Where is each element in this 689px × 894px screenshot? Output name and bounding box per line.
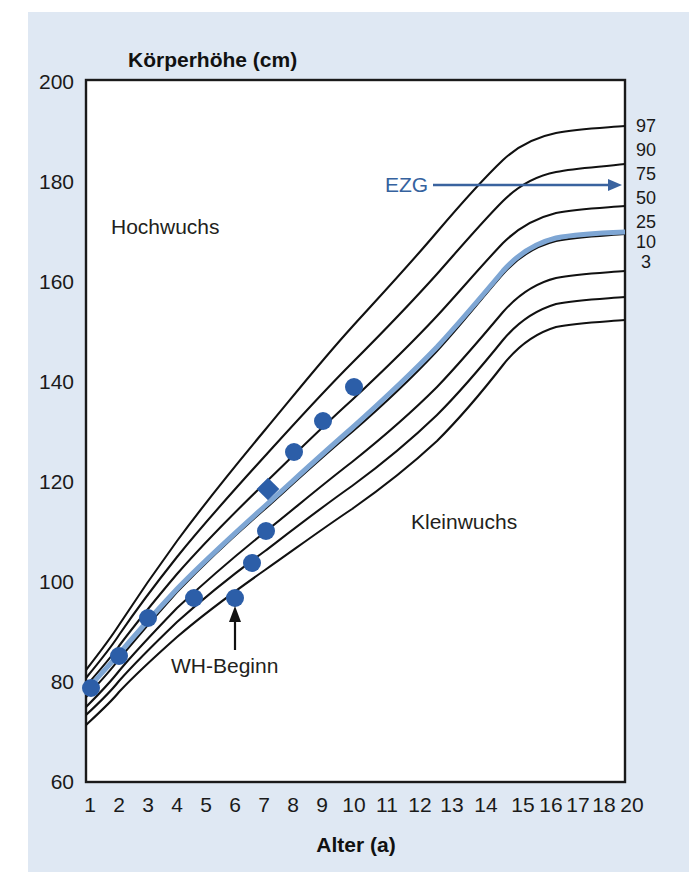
x-tick-15: 15 [511, 793, 534, 816]
data-point-6 [243, 554, 261, 572]
growth-chart-svg: Körperhöhe (cm) 200 180 160 140 120 100 … [0, 0, 689, 894]
x-tick-6: 6 [229, 793, 241, 816]
data-point-1 [82, 679, 100, 697]
growth-chart-figure: Körperhöhe (cm) 200 180 160 140 120 100 … [0, 0, 689, 894]
percentile-label-50: 50 [636, 188, 656, 208]
percentile-label-75: 75 [636, 164, 656, 184]
percentile-label-25: 25 [636, 212, 656, 232]
y-tick-100: 100 [39, 570, 74, 593]
x-tick-8: 8 [287, 793, 299, 816]
data-point-11 [345, 378, 363, 396]
y-tick-140: 140 [39, 370, 74, 393]
data-point-7 [257, 522, 275, 540]
x-tick-4: 4 [171, 793, 183, 816]
y-tick-160: 160 [39, 270, 74, 293]
zone-label-hochwuchs: Hochwuchs [111, 215, 220, 238]
percentile-label-97: 97 [636, 116, 656, 136]
data-point-4 [185, 589, 203, 607]
zone-label-kleinwuchs: Kleinwuchs [411, 510, 517, 533]
y-tick-180: 180 [39, 170, 74, 193]
y-axis-tick-labels: 200 180 160 140 120 100 80 60 [39, 70, 74, 793]
x-tick-13: 13 [440, 793, 463, 816]
annotation-wh-beginn-label: WH-Beginn [171, 654, 278, 677]
x-tick-10: 10 [342, 793, 365, 816]
x-tick-12: 12 [408, 793, 431, 816]
y-tick-120: 120 [39, 470, 74, 493]
data-point-9 [285, 443, 303, 461]
percentile-label-3: 3 [641, 252, 651, 272]
y-tick-80: 80 [51, 670, 74, 693]
x-tick-7: 7 [258, 793, 270, 816]
data-point-2 [110, 647, 128, 665]
y-tick-200: 200 [39, 70, 74, 93]
x-tick-2: 2 [113, 793, 125, 816]
y-tick-60: 60 [51, 770, 74, 793]
chart-title: Körperhöhe (cm) [128, 48, 297, 71]
x-tick-16: 16 [539, 793, 562, 816]
x-tick-11: 11 [376, 793, 398, 816]
x-tick-14: 14 [474, 793, 498, 816]
data-point-3 [139, 609, 157, 627]
data-point-5 [226, 589, 244, 607]
annotation-ezg-label: EZG [385, 173, 428, 196]
percentile-label-90: 90 [636, 140, 656, 160]
x-tick-5: 5 [200, 793, 212, 816]
percentile-legend: 97 90 75 50 25 10 3 [636, 116, 656, 272]
x-tick-20: 20 [620, 793, 643, 816]
x-tick-17: 17 [566, 793, 589, 816]
x-axis-tick-labels: 1 2 3 4 5 6 7 8 9 10 11 12 13 14 15 16 1… [84, 793, 644, 816]
x-tick-18: 18 [592, 793, 615, 816]
x-tick-9: 9 [316, 793, 328, 816]
data-point-10 [314, 412, 332, 430]
percentile-label-10: 10 [636, 232, 656, 252]
x-tick-3: 3 [142, 793, 154, 816]
x-axis-title: Alter (a) [316, 833, 395, 856]
x-tick-1: 1 [84, 793, 96, 816]
